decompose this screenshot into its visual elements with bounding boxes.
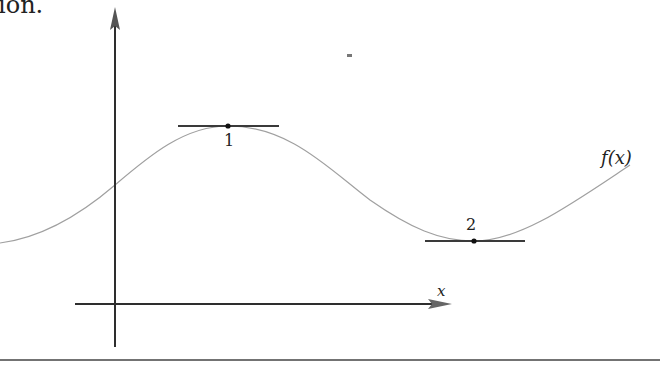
x-axis-label: x: [437, 282, 445, 300]
point-1-marker: [225, 123, 230, 128]
diagram-canvas: ion. 1 2 f(x) x: [0, 0, 668, 367]
point-1-label: 1: [224, 131, 234, 150]
top-text-fragment: ion.: [0, 0, 43, 19]
graph-svg: [0, 0, 668, 367]
point-2-label: 2: [466, 215, 476, 234]
point-2-marker: [471, 238, 476, 243]
stray-mark: [347, 54, 352, 57]
function-curve: [0, 126, 630, 243]
curve-label: f(x): [601, 147, 632, 168]
